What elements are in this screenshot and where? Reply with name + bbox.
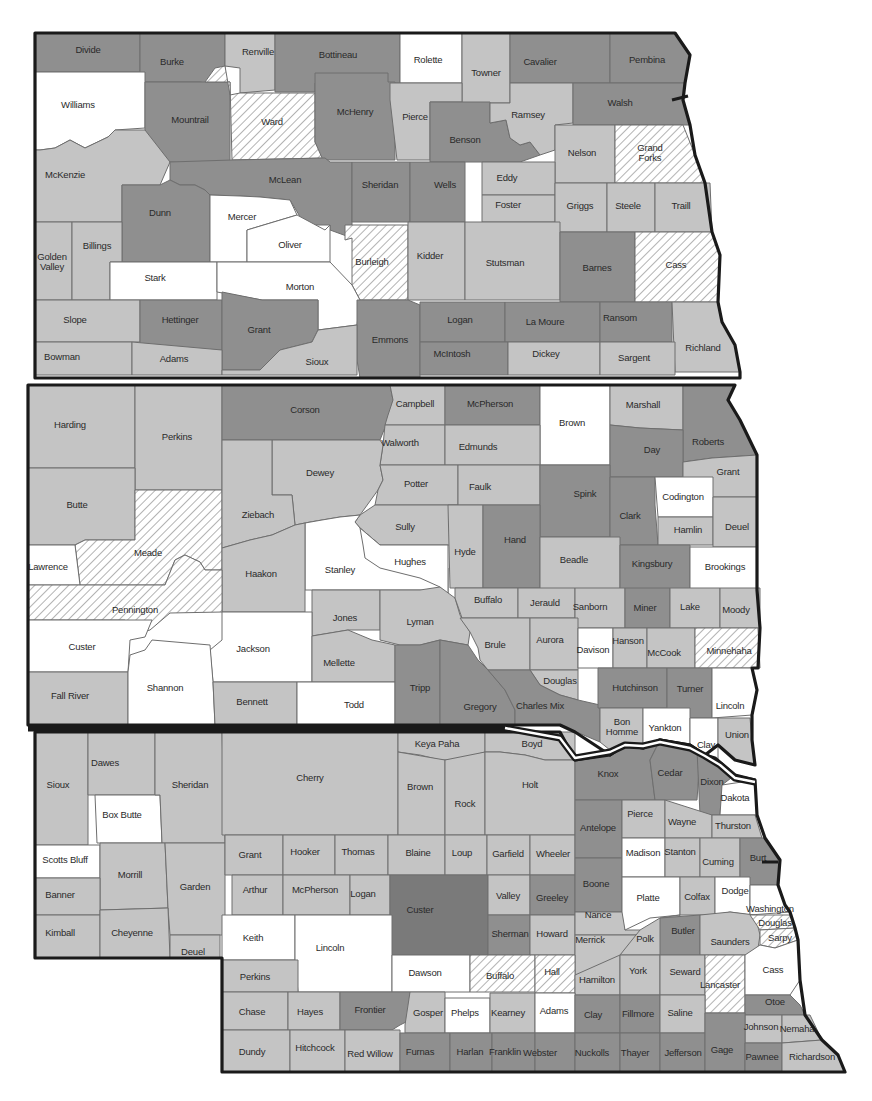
county-label: Arthur (243, 884, 268, 895)
county-label: Pierce (627, 808, 653, 819)
county-label: Stark (144, 272, 166, 283)
county-label: Madison (626, 847, 661, 858)
county-ne-stanton[interactable] (665, 838, 700, 877)
county-label: Saunders (710, 936, 750, 947)
county-nd-wells[interactable] (410, 162, 465, 222)
county-nd-dunn[interactable] (122, 180, 210, 262)
county-ne-gage[interactable] (705, 1013, 745, 1072)
county-label: Traill (671, 200, 690, 211)
county-label: Burke (160, 56, 184, 67)
county-label: Sargent (618, 352, 650, 363)
county-label: Walsh (607, 97, 632, 108)
county-label: McPherson (467, 398, 513, 409)
county-ne-saunders[interactable] (700, 912, 760, 955)
county-ne-pierce[interactable] (622, 800, 665, 838)
county-label: Morton (286, 281, 314, 292)
county-label: Campbell (396, 398, 435, 409)
county-label: Keya Paha (415, 738, 461, 749)
county-label: McIntosh (434, 348, 471, 359)
county-label: GrandForks (637, 142, 662, 163)
county-nd-slope[interactable] (35, 300, 140, 342)
county-label: Bowman (44, 351, 80, 362)
county-label: McPherson (292, 884, 338, 895)
county-label: Codington (662, 491, 704, 502)
county-label: Hayes (297, 1006, 323, 1017)
county-label: Bennett (236, 696, 268, 707)
county-label: Valley (496, 890, 520, 901)
county-label: Dewey (306, 467, 334, 478)
county-label: Todd (344, 699, 364, 710)
county-label: Colfax (684, 891, 710, 902)
county-label: Dundy (239, 1046, 266, 1057)
county-label: Spink (574, 488, 597, 499)
county-label: Renville (242, 46, 274, 57)
county-label: Yankton (649, 722, 682, 733)
county-label: Garden (180, 881, 211, 892)
county-sd-union[interactable] (718, 718, 755, 765)
county-ne-holt[interactable] (485, 752, 575, 835)
county-label: Howard (536, 928, 568, 939)
county-ne-brown[interactable] (398, 752, 445, 835)
county-sd-beadle[interactable] (540, 537, 620, 595)
county-nd-kidder[interactable] (408, 222, 465, 300)
county-label: Mellette (323, 657, 355, 668)
county-label: Sioux (306, 356, 329, 367)
county-label: Ransom (603, 312, 637, 323)
county-label: Brown (407, 781, 433, 792)
county-label: Antelope (580, 822, 616, 833)
county-nd-renville[interactable] (225, 33, 275, 93)
county-label: Nuckolls (575, 1047, 610, 1058)
county-ne-mcpherson[interactable] (283, 875, 350, 915)
county-sd-hand[interactable] (483, 505, 540, 588)
county-label: Merrick (575, 934, 605, 945)
county-label: Dawson (408, 967, 441, 978)
county-label: Thomas (341, 846, 375, 857)
county-label: Blaine (405, 847, 430, 858)
county-nd-hettinger[interactable] (140, 300, 222, 350)
county-label: Chase (239, 1006, 265, 1017)
county-label: Billings (83, 240, 112, 251)
county-ne-custer[interactable] (390, 875, 488, 955)
county-nd-sheridan[interactable] (352, 162, 410, 222)
county-ne-rock[interactable] (445, 752, 485, 835)
county-label: Butler (671, 925, 695, 936)
county-label: Haakon (245, 568, 277, 579)
county-ne-cherry[interactable] (222, 732, 398, 835)
county-label: Foster (495, 199, 521, 210)
county-label: Garfield (492, 848, 524, 859)
county-label: Brown (559, 417, 585, 428)
county-label: Webster (523, 1047, 557, 1058)
county-label: Pennington (112, 604, 158, 615)
county-label: Gosper (413, 1007, 443, 1018)
county-label: Logan (350, 888, 375, 899)
county-label: Custer (69, 641, 96, 652)
county-label: GoldenValley (37, 251, 66, 272)
county-label: Custer (407, 904, 434, 915)
county-label: Hall (544, 966, 560, 977)
county-label: Grant (717, 466, 740, 477)
county-label: Brule (484, 639, 505, 650)
county-label: Sanborn (573, 601, 608, 612)
county-label: Platte (636, 892, 659, 903)
county-label: Greeley (536, 892, 568, 903)
county-label: McHenry (337, 106, 374, 117)
county-label: Knox (598, 768, 619, 779)
county-sd-spink[interactable] (540, 465, 610, 537)
county-label: Sully (395, 521, 415, 532)
county-label: Meade (134, 547, 162, 558)
county-label: Otoe (765, 996, 785, 1007)
county-sd-roberts[interactable] (683, 385, 757, 462)
county-ne-arthur[interactable] (232, 875, 283, 915)
county-label: Perkins (162, 431, 193, 442)
county-label: McCook (647, 647, 681, 658)
county-label: Stanton (664, 846, 695, 857)
county-label: Box Butte (102, 809, 141, 820)
county-label: Stanley (325, 564, 356, 575)
county-label: Banner (45, 889, 74, 900)
county-nd-eddy[interactable] (482, 162, 555, 195)
county-label: Boone (583, 878, 609, 889)
county-ne-lincoln[interactable] (295, 915, 392, 992)
county-ne-dodge[interactable] (715, 877, 750, 915)
county-label: Douglas (543, 675, 577, 686)
county-label: Jerauld (530, 597, 560, 608)
